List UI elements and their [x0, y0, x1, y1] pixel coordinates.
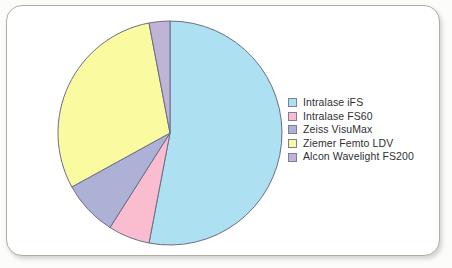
legend-item-label: Intralase FS60	[303, 110, 373, 124]
pie-slice-group	[58, 21, 282, 245]
legend-swatch-icon	[288, 139, 297, 148]
legend-item: Ziemer Femto LDV	[288, 137, 436, 151]
legend-item: Intralase FS60	[288, 110, 436, 124]
screenshot-root: Intralase iFSIntralase FS60Zeiss VisuMax…	[0, 0, 452, 268]
figure-frame: Intralase iFSIntralase FS60Zeiss VisuMax…	[6, 5, 440, 256]
pie-chart-area: Intralase iFSIntralase FS60Zeiss VisuMax…	[7, 6, 440, 256]
legend-swatch-icon	[288, 112, 297, 121]
legend-item: Intralase iFS	[288, 96, 436, 110]
legend-item: Zeiss VisuMax	[288, 123, 436, 137]
legend-item-label: Intralase iFS	[303, 96, 363, 110]
legend-item-label: Zeiss VisuMax	[303, 123, 372, 137]
legend-item-label: Ziemer Femto LDV	[303, 137, 393, 151]
legend-swatch-icon	[288, 98, 297, 107]
legend-item-label: Alcon Wavelight FS200	[303, 150, 414, 164]
legend-item: Alcon Wavelight FS200	[288, 150, 436, 164]
chart-legend: Intralase iFSIntralase FS60Zeiss VisuMax…	[288, 96, 436, 164]
legend-swatch-icon	[288, 125, 297, 134]
pie-chart	[55, 18, 285, 248]
legend-swatch-icon	[288, 153, 297, 162]
